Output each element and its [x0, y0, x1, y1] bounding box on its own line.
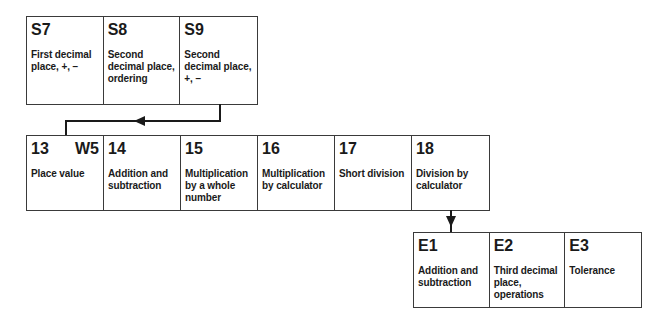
unit-code: 14 [108, 139, 176, 159]
unit-code: E1 [418, 236, 485, 256]
unit-code: S8 [108, 20, 176, 40]
row-core-units: 13 W5 Place value 14 Addition and subtra… [26, 135, 490, 211]
unit-box-e3: E3 Tolerance [565, 233, 641, 307]
unit-box-e2: E2 Third decimal place, operations [490, 233, 566, 307]
unit-code: 18 [416, 139, 485, 159]
unit-description: Second decimal place, +, − [184, 49, 253, 85]
unit-code: 17 [339, 139, 407, 159]
arrow-left-icon [134, 116, 145, 126]
unit-box-16: 16 Multiplication by calculator [258, 136, 335, 210]
unit-code: E3 [569, 236, 637, 256]
unit-box-17: 17 Short division [335, 136, 412, 210]
unit-description: Third decimal place, operations [494, 265, 561, 301]
unit-box-s9: S9 Second decimal place, +, − [180, 17, 257, 104]
unit-description: Multiplication by a whole number [185, 168, 253, 204]
unit-description: Second decimal place, ordering [108, 49, 176, 85]
unit-code: S9 [184, 20, 253, 40]
unit-box-e1: E1 Addition and subtraction [414, 233, 490, 307]
unit-box-15: 15 Multiplication by a whole number [181, 136, 258, 210]
unit-code: E2 [494, 236, 561, 256]
unit-box-s8: S8 Second decimal place, ordering [104, 17, 181, 104]
connector-line-vertical-13 [65, 120, 67, 136]
unit-description: Tolerance [569, 265, 637, 277]
unit-description: Addition and subtraction [418, 265, 485, 289]
unit-description: Place value [31, 168, 99, 180]
unit-code: S7 [31, 20, 99, 40]
unit-code: 15 [185, 139, 253, 159]
row-s-units: S7 First decimal place, +, − S8 Second d… [26, 16, 258, 105]
unit-box-18: 18 Division by calculator [412, 136, 489, 210]
unit-box-13: 13 W5 Place value [27, 136, 104, 210]
unit-code: 16 [262, 139, 330, 159]
unit-description: First decimal place, +, − [31, 49, 99, 73]
unit-box-s7: S7 First decimal place, +, − [27, 17, 104, 104]
unit-description: Multiplication by calculator [262, 168, 330, 192]
connector-line-vertical-s9 [219, 104, 221, 121]
unit-tag: W5 [75, 139, 99, 159]
unit-description: Short division [339, 168, 407, 180]
row-e-units: E1 Addition and subtraction E2 Third dec… [413, 232, 642, 308]
arrow-down-icon [446, 216, 456, 227]
unit-box-14: 14 Addition and subtraction [104, 136, 181, 210]
unit-description: Division by calculator [416, 168, 485, 192]
unit-description: Addition and subtraction [108, 168, 176, 192]
